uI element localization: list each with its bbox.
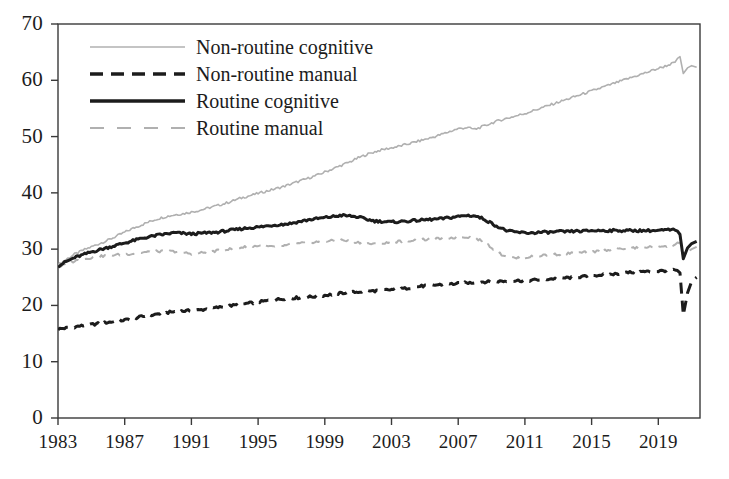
y-tick-label-60: 60	[0, 69, 43, 90]
x-tick-label-1987: 1987	[90, 432, 160, 451]
x-tick-label-2003: 2003	[357, 432, 427, 451]
legend-label-routine-manual: Routine manual	[196, 117, 324, 139]
series-group	[58, 57, 697, 330]
y-tick-label-30: 30	[0, 238, 43, 259]
y-tick-label-40: 40	[0, 182, 43, 203]
y-tick-label-20: 20	[0, 294, 43, 315]
y-tick-label-0: 0	[0, 407, 43, 428]
x-tick-label-2019: 2019	[623, 432, 693, 451]
x-tick-label-1983: 1983	[23, 432, 93, 451]
y-tick-label-10: 10	[0, 351, 43, 372]
y-tick-label-50: 50	[0, 126, 43, 147]
x-tick-label-1995: 1995	[223, 432, 293, 451]
x-tick-label-2015: 2015	[557, 432, 627, 451]
x-tick-label-1991: 1991	[156, 432, 226, 451]
series-line-non-routine-manual	[58, 269, 697, 330]
chart-figure: Non-routine cognitiveNon-routine manualR…	[0, 0, 729, 479]
legend-label-routine-cognitive: Routine cognitive	[196, 90, 339, 113]
line-chart-canvas: Non-routine cognitiveNon-routine manualR…	[0, 0, 729, 479]
series-line-routine-cognitive	[58, 215, 697, 268]
x-tick-label-2007: 2007	[423, 432, 493, 451]
x-axis-ticks	[58, 418, 658, 425]
y-axis-ticks	[51, 24, 58, 418]
legend-label-non-routine-manual: Non-routine manual	[196, 63, 358, 85]
series-line-routine-manual	[58, 236, 697, 267]
chart-legend: Non-routine cognitiveNon-routine manualR…	[90, 36, 373, 139]
x-tick-label-1999: 1999	[290, 432, 360, 451]
y-tick-label-70: 70	[0, 13, 43, 34]
legend-label-non-routine-cognitive: Non-routine cognitive	[196, 36, 373, 59]
x-tick-label-2011: 2011	[490, 432, 560, 451]
